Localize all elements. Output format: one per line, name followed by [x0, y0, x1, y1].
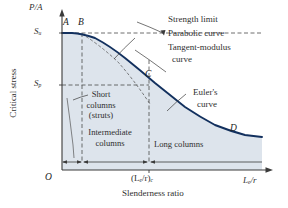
annotation-tangent-modulus-line2: curve — [172, 55, 192, 64]
origin-label: O — [45, 173, 52, 183]
point-label-a: A — [63, 18, 69, 28]
point-label-d: D — [230, 124, 237, 134]
region-long-line1: Long columns — [154, 140, 222, 149]
annotation-eulers-curve: Euler's — [193, 88, 218, 97]
y-tick-label-sp: Sp — [34, 79, 41, 89]
region-label-long: Long columns — [154, 140, 222, 149]
x-tick-label-critical: (Le/r)c — [131, 174, 153, 184]
x-axis-title: Slenderness ratio — [122, 189, 184, 198]
y-axis-arrow — [59, 9, 64, 17]
point-label-c: C — [145, 70, 151, 80]
region-label-intermediate: Intermediate columns — [74, 128, 146, 147]
annotation-tangent-modulus: Tangent-modulus — [168, 43, 231, 52]
region-short-line3: (struts) — [78, 111, 124, 120]
annotation-strength-limit: Strength limit — [168, 15, 218, 24]
x-axis-symbol: Le/r — [243, 176, 257, 186]
annotation-eulers-curve-line2: curve — [197, 100, 217, 109]
y-axis-title: Critical stress — [8, 58, 18, 128]
x-axis-arrow — [266, 167, 274, 172]
annotation-parabolic-curve: Parabolic curve — [168, 29, 224, 38]
leader-strength-limit — [137, 22, 163, 33]
chart-figure: P/A Critical stress Su Sp O (Le/r)c Le/r… — [0, 0, 288, 208]
point-label-b: B — [78, 18, 84, 28]
region-intermediate-line1: Intermediate — [74, 128, 146, 137]
region-short-line2: columns — [78, 101, 124, 110]
region-intermediate-line2: columns — [74, 139, 146, 148]
y-axis-symbol: P/A — [29, 3, 43, 12]
region-short-line1: Short — [78, 90, 124, 99]
y-tick-label-su: Su — [34, 27, 41, 37]
region-label-short: Short columns (struts) — [78, 90, 124, 120]
leader-parabolic — [114, 38, 135, 59]
